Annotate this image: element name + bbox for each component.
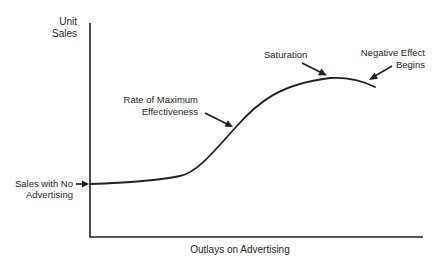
annotation-no-advertising-line2: Advertising <box>26 189 73 200</box>
arrowhead-icon <box>82 181 89 188</box>
x-axis-label: Outlays on Advertising <box>190 244 290 255</box>
y-axis-label-line2: Sales <box>52 28 77 39</box>
annotation-max-effectiveness-line1: Rate of Maximum <box>124 94 199 105</box>
arrow-max-effectiveness <box>205 113 227 124</box>
y-axis-label-line1: Unit <box>59 16 77 27</box>
arrowhead-icon <box>369 73 378 81</box>
arrow-negative-effect <box>375 66 392 76</box>
annotation-max-effectiveness-line2: Effectiveness <box>142 106 199 117</box>
arrow-saturation <box>302 63 320 72</box>
annotation-negative-effect-line2: Begins <box>396 59 425 70</box>
annotation-negative-effect-line1: Negative Effect <box>361 47 426 58</box>
annotation-no-advertising-line1: Sales with No <box>15 178 73 189</box>
advertising-response-diagram: Unit Sales Outlays on Advertising Sales … <box>0 0 441 262</box>
annotation-saturation: Saturation <box>264 49 307 60</box>
